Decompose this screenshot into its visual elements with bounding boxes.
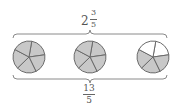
top-brace xyxy=(13,30,167,38)
fraction-circle xyxy=(13,41,45,73)
bottom-brace xyxy=(13,75,167,83)
fraction-circle xyxy=(74,41,106,73)
improper-fraction-label: 13 5 xyxy=(82,83,96,107)
improper-fraction-numerator: 13 xyxy=(82,84,96,93)
fraction-circle xyxy=(137,41,169,73)
circles-group xyxy=(13,41,169,73)
improper-fraction-denominator: 5 xyxy=(82,96,96,105)
